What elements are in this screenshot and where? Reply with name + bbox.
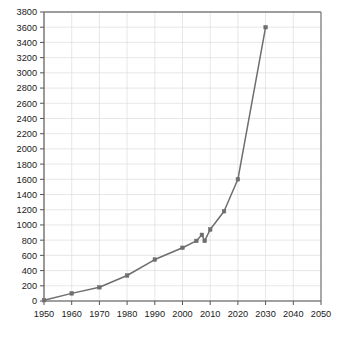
data-point-marker [125, 274, 129, 278]
y-tick-label: 2000 [17, 144, 37, 154]
data-point-marker [236, 178, 240, 182]
y-tick-label: 600 [22, 251, 37, 261]
x-tick-label: 2050 [311, 309, 331, 319]
y-tick-label: 800 [22, 236, 37, 246]
x-tick-label: 2000 [172, 309, 192, 319]
x-tick-label: 2010 [200, 309, 220, 319]
y-tick-label: 3200 [17, 53, 37, 63]
data-point-marker [208, 228, 212, 232]
data-point-marker [264, 25, 268, 29]
data-point-marker [70, 292, 74, 296]
y-tick-label: 3400 [17, 38, 37, 48]
data-point-marker [42, 298, 46, 302]
x-tick-label: 1990 [145, 309, 165, 319]
x-tick-label: 1950 [34, 309, 54, 319]
data-point-marker [98, 286, 102, 290]
y-tick-label: 400 [22, 266, 37, 276]
y-tick-label: 3800 [17, 7, 37, 17]
data-point-marker [181, 246, 185, 250]
y-tick-label: 1600 [17, 175, 37, 185]
data-point-marker [153, 258, 157, 262]
data-point-marker [200, 233, 204, 237]
data-point-marker [195, 239, 199, 243]
y-tick-label: 1200 [17, 205, 37, 215]
x-tick-label: 1980 [117, 309, 137, 319]
data-point-marker [203, 239, 207, 243]
y-tick-label: 200 [22, 281, 37, 291]
x-tick-label: 2040 [283, 309, 303, 319]
y-tick-label: 2600 [17, 99, 37, 109]
y-tick-label: 3600 [17, 23, 37, 33]
x-tick-label: 1960 [61, 309, 81, 319]
y-tick-label: 3000 [17, 68, 37, 78]
y-axis-tick-labels: 0200400600800100012001400160018002000220… [17, 7, 37, 306]
y-tick-label: 2400 [17, 114, 37, 124]
data-point-marker [222, 209, 226, 213]
y-tick-label: 2200 [17, 129, 37, 139]
chart-canvas: 0200400600800100012001400160018002000220… [0, 0, 352, 338]
x-tick-label: 1970 [89, 309, 109, 319]
y-tick-label: 0 [32, 296, 37, 306]
y-tick-label: 2800 [17, 83, 37, 93]
y-tick-label: 1800 [17, 160, 37, 170]
x-tick-label: 2020 [228, 309, 248, 319]
chart-grid [44, 12, 321, 301]
x-tick-label: 2030 [255, 309, 275, 319]
x-axis-tick-labels: 1950196019701980199020002010202020302040… [34, 309, 331, 319]
line-chart: 0200400600800100012001400160018002000220… [0, 0, 352, 338]
y-tick-label: 1400 [17, 190, 37, 200]
y-tick-label: 1000 [17, 220, 37, 230]
